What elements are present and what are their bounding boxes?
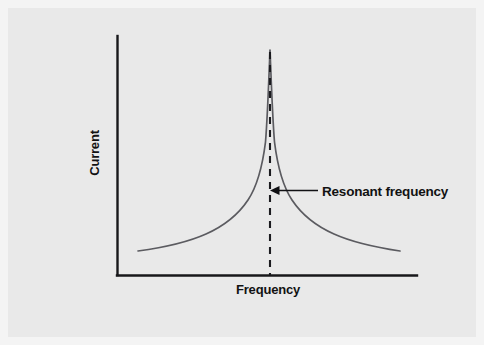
resonance-chart: Resonant frequency Frequency Current (0, 0, 484, 345)
resonance-curve-figure: Resonant frequency Frequency Current (0, 0, 484, 345)
y-axis-title: Current (87, 129, 102, 175)
resonant-frequency-label: Resonant frequency (322, 184, 449, 199)
annotation-arrow-head-icon (270, 186, 280, 195)
x-axis-title: Frequency (236, 282, 301, 297)
